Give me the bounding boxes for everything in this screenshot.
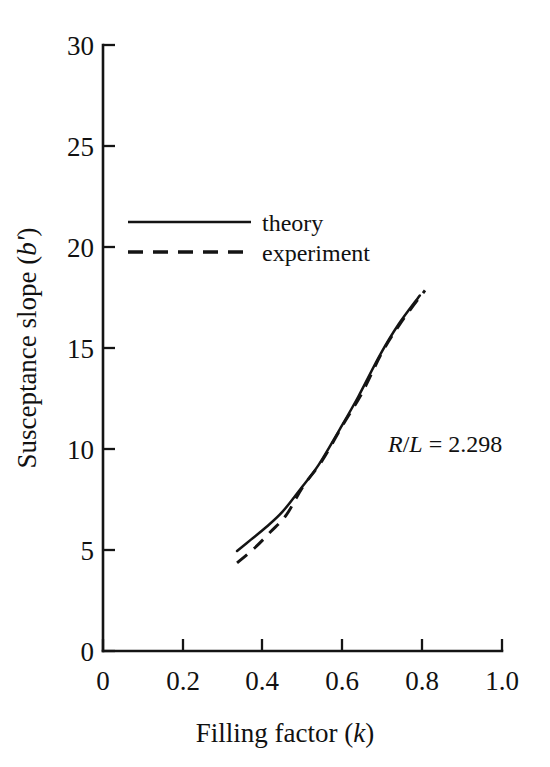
series-experiment-line: [237, 290, 425, 563]
chart-figure: 0 5 10 15 20 25 30 0 0.2 0.4 0.6 0.8 1.0: [0, 0, 550, 767]
chart-canvas: 0 5 10 15 20 25 30 0 0.2 0.4 0.6 0.8 1.0: [0, 0, 550, 767]
x-axis-title-text: Filling factor (k): [196, 718, 374, 748]
x-tick-label-1p0: 1.0: [485, 666, 519, 696]
legend-label-theory: theory: [262, 210, 323, 236]
x-tick-label-0p0: 0: [96, 666, 110, 696]
y-axis-title-text: Susceptance slope (b'): [12, 227, 42, 468]
x-tick-label-0p6: 0.6: [325, 666, 359, 696]
ratio-annotation: R/L = 2.298: [387, 431, 502, 457]
y-tick-label-5: 5: [81, 536, 95, 566]
x-tick-label-0p8: 0.8: [405, 666, 439, 696]
x-tick-marks: [103, 639, 502, 651]
x-axis-title-paren-close: ): [365, 718, 374, 748]
legend: theory experiment: [128, 210, 370, 266]
legend-label-experiment: experiment: [262, 240, 370, 266]
ratio-equals: =: [423, 431, 449, 457]
x-tick-labels: 0 0.2 0.4 0.6 0.8 1.0: [96, 666, 519, 696]
x-axis-title-main: Filling factor: [196, 718, 338, 748]
axes-group: [103, 45, 502, 651]
y-tick-label-10: 10: [67, 435, 94, 465]
y-tick-label-20: 20: [67, 233, 94, 263]
ratio-denominator: L: [408, 431, 422, 457]
x-tick-label-0p4: 0.4: [245, 666, 279, 696]
y-axis-title-main: Susceptance slope: [12, 271, 42, 468]
ratio-annotation-text: R/L = 2.298: [387, 431, 502, 457]
series-theory-line: [237, 295, 420, 551]
y-tick-marks: [103, 45, 115, 651]
x-tick-label-0p2: 0.2: [166, 666, 200, 696]
x-axis-title-paren-open: (: [338, 718, 354, 748]
y-axis-title-paren-open: (: [12, 256, 42, 272]
ratio-numerator: R: [387, 431, 403, 457]
y-axis-title-paren-close: ): [12, 227, 42, 236]
y-tick-label-30: 30: [67, 31, 94, 61]
y-tick-labels: 0 5 10 15 20 25 30: [67, 31, 94, 667]
ratio-value: 2.298: [448, 431, 502, 457]
y-axis-title-symbol: b': [12, 235, 42, 256]
x-axis-title: Filling factor (k): [196, 718, 374, 748]
y-tick-label-15: 15: [67, 334, 94, 364]
y-axis-title: Susceptance slope (b'): [12, 227, 42, 468]
y-tick-label-0: 0: [81, 637, 95, 667]
y-tick-label-25: 25: [67, 132, 94, 162]
data-series-group: [237, 290, 425, 563]
